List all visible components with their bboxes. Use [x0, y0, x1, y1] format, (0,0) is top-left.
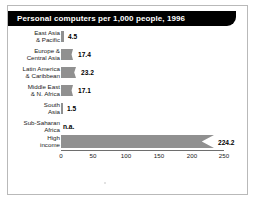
x-axis-tick: 50: [90, 152, 97, 160]
x-axis-tick: 150: [154, 152, 164, 160]
bar-track: n.a.: [61, 119, 241, 134]
category-label: East Asia & Pacific: [8, 30, 60, 43]
bar-value-label: 1.5: [67, 104, 76, 113]
category-label: High income: [8, 135, 60, 148]
bar-value-label: 17.1: [78, 86, 91, 95]
bar-value-label: 4.5: [68, 32, 77, 41]
category-label: Latin America & Caribbean: [8, 66, 60, 79]
bar-value-label: 23.2: [81, 68, 94, 77]
bar: [61, 85, 73, 96]
bar-track: 1.5: [61, 101, 241, 116]
bar-track: 23.2: [61, 65, 241, 80]
bar: [61, 67, 76, 78]
bar-value-label: 17.4: [78, 50, 91, 59]
bar-track: 4.5: [61, 29, 241, 44]
bar: [61, 49, 73, 60]
bar-track: 17.4: [61, 47, 241, 62]
plot-area: East Asia & Pacific 4.5 Europe & Central…: [8, 26, 248, 161]
category-label: Middle East & N. Africa: [8, 84, 60, 97]
bar-value-label: n.a.: [63, 122, 74, 131]
x-axis-tick: 100: [121, 152, 131, 160]
bar-track: 224.2: [61, 134, 241, 149]
category-label: Sub-Saharan Africa: [8, 120, 60, 133]
category-label: South Asia: [8, 102, 60, 115]
bar: [61, 103, 63, 114]
x-axis-tick: 0: [59, 152, 62, 160]
chart-title: Personal computers per 1,000 people, 199…: [17, 14, 185, 23]
chart-title-bar: Personal computers per 1,000 people, 199…: [8, 11, 236, 26]
x-axis-line: [61, 150, 224, 151]
bar: [61, 31, 64, 42]
bar: [61, 135, 214, 148]
x-axis-tick: 250: [219, 152, 229, 160]
x-axis-tick: 200: [187, 152, 197, 160]
bar-value-label: 224.2: [218, 138, 235, 147]
image-artifact: [104, 182, 106, 184]
chart-figure: Personal computers per 1,000 people, 199…: [7, 5, 248, 195]
category-label: Europe & Central Asia: [8, 48, 60, 61]
bar-track: 17.1: [61, 83, 241, 98]
